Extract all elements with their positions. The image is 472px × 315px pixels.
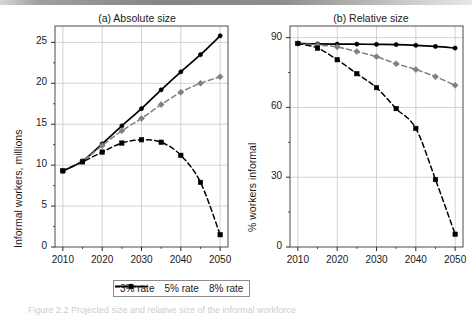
panel-b-marker-square <box>374 85 378 89</box>
panel-a-marker-square <box>100 150 104 154</box>
panel-a-marker-square <box>80 160 84 164</box>
panel-b-marker-circle <box>433 44 437 48</box>
panel-a-group <box>51 26 228 251</box>
panel-a-marker-diamond <box>197 80 203 86</box>
panel-b-marker-circle <box>453 46 457 50</box>
legend-item-5-rate[interactable]: 5% rate <box>164 283 198 294</box>
panel-b-ytick-label: 0 <box>246 240 282 251</box>
panel-b-marker-square <box>394 106 398 110</box>
panel-b-ytick-label: 60 <box>246 100 282 111</box>
panel-a-marker-diamond <box>178 89 184 95</box>
legend-label: 5% rate <box>164 283 198 294</box>
panel-a-marker-circle <box>139 107 143 111</box>
panel-b-marker-square <box>453 232 457 236</box>
figure-container: (a) Absolute size (b) Relative size Info… <box>0 0 472 315</box>
panel-b-marker-square <box>296 41 300 45</box>
panel-a-marker-square <box>139 138 143 142</box>
panel-b-marker-circle <box>355 42 359 46</box>
panel-b-marker-diamond <box>413 67 419 73</box>
panel-a-marker-circle <box>120 124 124 128</box>
panel-a-marker-square <box>179 153 183 157</box>
panel-a-marker-circle <box>218 34 222 38</box>
panel-a-ytick-label: 10 <box>11 158 47 169</box>
panel-b-marker-square <box>433 177 437 181</box>
panel-a-marker-circle <box>159 88 163 92</box>
panel-a-marker-square <box>61 169 65 173</box>
panel-b-marker-diamond <box>452 82 458 88</box>
panel-b-marker-square <box>414 126 418 130</box>
panel-b-ytick-label: 90 <box>246 31 282 42</box>
panel-b-ytick-label: 30 <box>246 170 282 181</box>
panel-b-marker-circle <box>414 43 418 47</box>
legend-marker-square <box>129 284 134 289</box>
panel-a-marker-circle <box>179 70 183 74</box>
legend-swatch-square <box>114 281 148 292</box>
panel-b-marker-square <box>355 71 359 75</box>
chart-legend: 3% rate5% rate8% rate <box>113 280 250 297</box>
panel-b-group <box>286 26 463 251</box>
panel-a-marker-square <box>198 180 202 184</box>
legend-label: 8% rate <box>209 283 243 294</box>
panel-a-ytick-label: 0 <box>11 240 47 251</box>
panel-a-ytick-label: 15 <box>11 117 47 128</box>
panel-b-xtick-label: 2050 <box>431 254 472 265</box>
panel-b-marker-square <box>315 46 319 50</box>
panel-b-marker-diamond <box>354 49 360 55</box>
panel-a-marker-square <box>120 141 124 145</box>
panel-a-ytick-label: 20 <box>11 76 47 87</box>
panel-a-ytick-label: 5 <box>11 199 47 210</box>
panel-b-marker-diamond <box>393 61 399 67</box>
panel-a-marker-circle <box>198 53 202 57</box>
panel-a-xtick-label: 2050 <box>196 254 244 265</box>
panel-a-marker-square <box>218 233 222 237</box>
panel-b-marker-square <box>335 58 339 62</box>
panel-b-marker-diamond <box>432 74 438 80</box>
panel-b-marker-circle <box>374 42 378 46</box>
panel-a-ytick-label: 25 <box>11 35 47 46</box>
figure-caption: Figure 2.2 Projected size and relative s… <box>28 305 296 315</box>
panel-b-marker-circle <box>394 43 398 47</box>
panel-b-marker-diamond <box>374 54 380 60</box>
panel-a-marker-square <box>159 140 163 144</box>
legend-item-8-rate[interactable]: 8% rate <box>209 283 243 294</box>
panel-a-marker-diamond <box>217 74 223 80</box>
plot-surface <box>0 0 472 315</box>
